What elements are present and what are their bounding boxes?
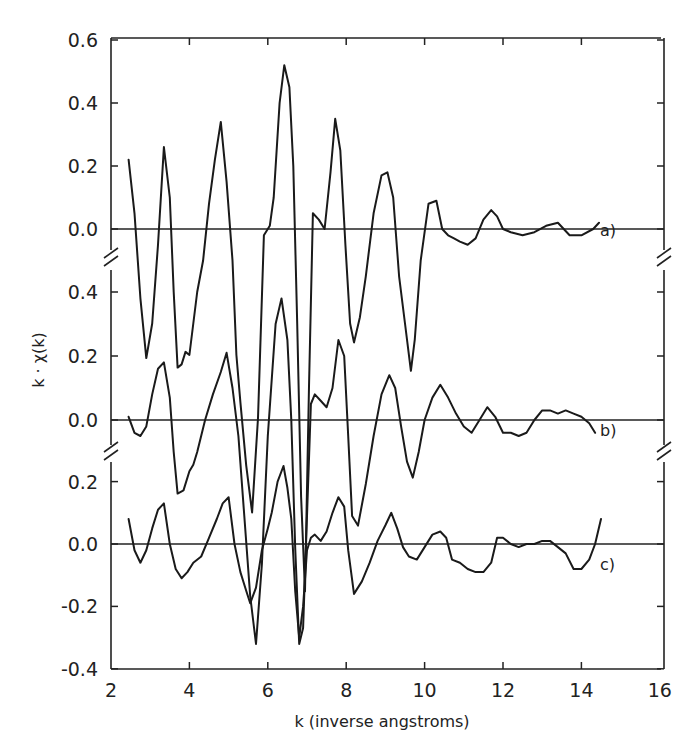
x-tick-label: 6: [262, 679, 274, 701]
y-tick-label: -0.2: [61, 595, 98, 617]
panel-label-c: c): [600, 555, 615, 574]
x-tick-label: 2: [105, 679, 117, 701]
exafs-chart: 0.60.40.20.00.40.20.00.20.0-0.2-0.4 2468…: [0, 0, 698, 751]
x-ticks: 246810121416: [105, 38, 672, 701]
x-tick-label: 14: [569, 679, 593, 701]
y-tick-label: 0.2: [68, 345, 98, 367]
x-tick-label: 4: [183, 679, 195, 701]
x-tick-label: 12: [491, 679, 515, 701]
x-tick-label: 10: [413, 679, 437, 701]
y-tick-label: 0.4: [68, 92, 98, 114]
series-a-curve: [129, 65, 599, 591]
y-tick-label: 0.4: [68, 281, 98, 303]
y-axis-label: k · χ(k): [29, 332, 48, 388]
plot-frame: [111, 38, 664, 669]
y-tick-label: 0.0: [68, 533, 98, 555]
x-tick-label: 16: [648, 679, 672, 701]
y-tick-label: 0.0: [68, 218, 98, 240]
panel-label-b: b): [600, 421, 616, 440]
y-tick-label: 0.6: [68, 29, 98, 51]
panel-label-a: a): [600, 221, 616, 240]
y-tick-label: 0.0: [68, 409, 98, 431]
x-tick-label: 8: [340, 679, 352, 701]
x-axis-label: k (inverse angstroms): [294, 712, 469, 731]
series-b-curve: [129, 298, 595, 644]
y-tick-label: -0.4: [61, 658, 98, 680]
y-tick-label: 0.2: [68, 471, 98, 493]
y-tick-label: 0.2: [68, 155, 98, 177]
